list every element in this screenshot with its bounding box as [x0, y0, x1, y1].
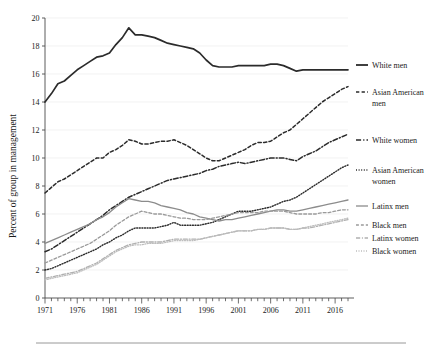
y-axis-tick-label: 12	[32, 126, 40, 135]
y-axis-title: Percent of group in management	[8, 114, 18, 238]
x-axis-tick-label: 1976	[69, 306, 85, 315]
legend-label: women	[372, 177, 396, 186]
x-axis-tick-label: 1986	[134, 306, 150, 315]
x-axis-tick-label: 2006	[263, 306, 279, 315]
x-axis-tick-label: 1971	[37, 306, 53, 315]
y-axis-tick-label: 10	[32, 154, 40, 163]
y-axis-tick-label: 2	[36, 266, 40, 275]
x-axis-tick-label: 1981	[101, 306, 117, 315]
y-axis-tick-label: 0	[36, 294, 40, 303]
legend-label: men	[372, 99, 386, 108]
x-axis-tick-label: 2001	[230, 306, 246, 315]
legend-label: Asian American	[372, 166, 424, 175]
legend-label: Latinx women	[372, 234, 418, 243]
line-chart: 02468101214161820 1971197619811986199119…	[0, 0, 442, 354]
figure-container: 02468101214161820 1971197619811986199119…	[0, 0, 442, 354]
y-axis-tick-label: 14	[32, 98, 40, 107]
x-axis-tick-label: 2016	[327, 306, 343, 315]
legend-label: Latinx men	[372, 202, 409, 211]
legend-label: Asian American	[372, 88, 424, 97]
y-axis-tick-label: 6	[36, 210, 40, 219]
y-axis-tick-label: 20	[32, 14, 40, 23]
y-axis-tick-label: 16	[32, 70, 40, 79]
legend-label: White women	[372, 136, 417, 145]
y-axis-tick-label: 18	[32, 42, 40, 51]
y-axis-tick-label: 8	[36, 182, 40, 191]
x-axis-tick-label: 1991	[166, 306, 182, 315]
y-axis-tick-label: 4	[36, 238, 40, 247]
legend-label: Black men	[372, 221, 406, 230]
x-axis-tick-label: 1996	[198, 306, 214, 315]
x-axis-tick-label: 2011	[295, 306, 311, 315]
legend-label: Black women	[372, 247, 416, 256]
legend-label: White men	[372, 61, 407, 70]
